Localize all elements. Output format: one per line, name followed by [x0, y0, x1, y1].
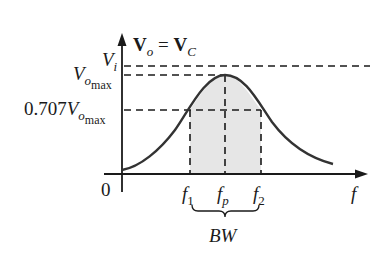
v707-label: 0.707Vomax: [24, 99, 106, 118]
vomax-label: Vomax: [73, 64, 112, 83]
title-equals: =: [153, 34, 173, 55]
bw-label: BW: [209, 226, 236, 245]
title-c-sub: C: [187, 44, 196, 59]
f2-sub: 2: [258, 193, 265, 208]
f1-sub: 1: [187, 193, 194, 208]
vi-i-sub: i: [114, 59, 118, 74]
v707-v: V: [67, 98, 79, 119]
f-axis-label: f: [351, 184, 356, 203]
f1-label: f1: [182, 184, 194, 203]
v707-o-sub: o: [78, 108, 85, 123]
v707-number: 0.707: [24, 98, 67, 119]
fp-sub: p: [222, 193, 229, 208]
vomax-v: V: [73, 63, 85, 84]
vomax-max-sub: max: [91, 78, 112, 92]
title-v: V: [133, 34, 147, 55]
origin-label: 0: [101, 180, 111, 199]
title-v2: V: [173, 34, 187, 55]
x-axis-arrow: [355, 170, 368, 179]
f2-label: f2: [253, 184, 265, 203]
plot-title: Vo = VC: [133, 35, 196, 54]
fp-label: fp: [217, 184, 229, 203]
y-axis-arrow: [118, 33, 127, 46]
v707-max-sub: max: [85, 113, 106, 127]
title-o-sub: o: [147, 44, 154, 59]
